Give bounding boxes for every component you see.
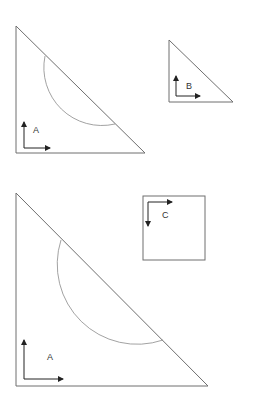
arc-curve [57, 240, 163, 344]
triangle-a-large: A [16, 193, 208, 386]
diagram-canvas: A B C A [0, 0, 253, 398]
triangle-outline [16, 193, 208, 386]
triangle-a-small: A [16, 26, 145, 153]
figure-label: A [47, 352, 53, 362]
square-outline [143, 196, 205, 260]
figure-label: C [162, 210, 169, 220]
triangle-b: B [169, 40, 233, 102]
arc-curve [44, 56, 115, 126]
figure-label: A [33, 125, 39, 135]
figure-label: B [186, 81, 192, 91]
square-c: C [143, 196, 205, 260]
triangle-outline [169, 40, 233, 102]
